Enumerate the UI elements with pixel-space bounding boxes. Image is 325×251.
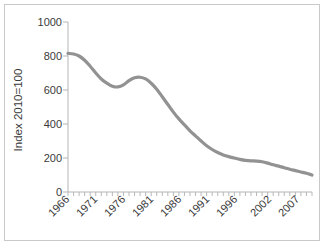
x-tick-label-1996: 1996 xyxy=(214,193,240,219)
line-chart: Index 2010=100 1000 800 600 400 200 0 19… xyxy=(0,0,325,251)
x-axis xyxy=(68,192,312,196)
chart-figure: Index 2010=100 1000 800 600 400 200 0 19… xyxy=(0,0,325,251)
y-axis-tick-labels: 1000 800 600 400 200 0 xyxy=(38,16,62,198)
x-tick-label-2002: 2002 xyxy=(248,193,274,219)
x-axis-minor-ticks xyxy=(68,192,312,196)
y-axis xyxy=(63,22,68,192)
y-tick-label-200: 200 xyxy=(44,152,62,164)
y-axis-title: Index 2010=100 xyxy=(12,69,24,152)
y-tick-label-800: 800 xyxy=(44,50,62,62)
y-tick-label-1000: 1000 xyxy=(38,16,62,28)
x-tick-label-1986: 1986 xyxy=(158,193,184,219)
x-tick-label-1971: 1971 xyxy=(74,193,100,219)
x-tick-label-1966: 1966 xyxy=(46,193,72,219)
series-line-index xyxy=(68,53,312,175)
x-tick-label-1991: 1991 xyxy=(186,193,212,219)
y-tick-label-400: 400 xyxy=(44,118,62,130)
x-tick-label-2007: 2007 xyxy=(276,193,302,219)
x-axis-tick-labels: 1966 1971 1976 1981 1986 1991 1996 2002 … xyxy=(46,193,302,219)
y-axis-title-text: Index 2010=100 xyxy=(12,69,24,152)
y-tick-label-600: 600 xyxy=(44,84,62,96)
x-tick-label-1981: 1981 xyxy=(130,193,156,219)
x-tick-label-1976: 1976 xyxy=(102,193,128,219)
